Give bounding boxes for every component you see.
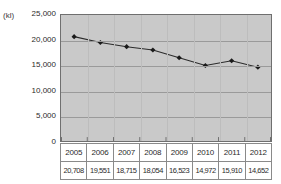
table-cell-year: 2006 [87, 144, 113, 162]
table-row-values: 20,70819,55118,71518,05416,52314,97215,9… [61, 162, 272, 180]
plot-area [60, 14, 272, 142]
table-cell-value: 18,715 [113, 162, 139, 180]
data-point-marker [150, 47, 155, 52]
table-cell-year: 2010 [192, 144, 218, 162]
table-cell-value: 16,523 [166, 162, 192, 180]
data-point-marker [72, 34, 77, 39]
table-cell-value: 14,652 [245, 162, 271, 180]
y-axis-tick-label: 20,000 [32, 36, 56, 44]
y-axis-tick-label: 10,000 [32, 87, 56, 95]
data-point-marker [229, 58, 234, 63]
vertical-gridline [167, 15, 168, 141]
y-axis: 25,00020,00015,00010,0005,0000 [0, 10, 58, 142]
vertical-gridline [141, 15, 142, 141]
line-chart-figure: (kl) 25,00020,00015,00010,0005,0000 2005… [0, 0, 281, 184]
table-cell-value: 19,551 [87, 162, 113, 180]
vertical-gridline [194, 15, 195, 141]
table-cell-year: 2011 [219, 144, 245, 162]
y-axis-tick-label: 25,000 [32, 10, 56, 18]
vertical-gridline [247, 15, 248, 141]
y-axis-tick-label: 5,000 [36, 112, 56, 120]
vertical-gridline [88, 15, 89, 141]
table-cell-year: 2005 [61, 144, 87, 162]
table-cell-value: 20,708 [61, 162, 87, 180]
table-row-years: 20052006200720082009201020112012 [61, 144, 272, 162]
y-axis-tick-label: 0 [52, 138, 56, 146]
chart-title [0, 0, 281, 1]
gridline [61, 66, 271, 67]
table-cell-value: 14,972 [192, 162, 218, 180]
data-point-marker [124, 44, 129, 49]
table-cell-year: 2012 [245, 144, 271, 162]
gridline [61, 117, 271, 118]
table-cell-year: 2007 [113, 144, 139, 162]
gridline [61, 92, 271, 93]
y-axis-tick-label: 15,000 [32, 61, 56, 69]
table-cell-year: 2009 [166, 144, 192, 162]
data-table: 20052006200720082009201020112012 20,7081… [60, 143, 272, 180]
table-cell-year: 2008 [140, 144, 166, 162]
series-line [61, 15, 271, 141]
vertical-gridline [220, 15, 221, 141]
data-point-marker [177, 55, 182, 60]
table-cell-value: 15,910 [219, 162, 245, 180]
table-cell-value: 18,054 [140, 162, 166, 180]
gridline [61, 41, 271, 42]
vertical-gridline [114, 15, 115, 141]
